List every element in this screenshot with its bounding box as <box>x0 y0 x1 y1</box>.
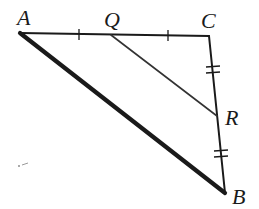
vertex-label-b: B <box>232 184 245 209</box>
vertex-label-c: C <box>201 8 216 33</box>
vertex-label-q: Q <box>104 7 120 32</box>
segment-ac <box>20 33 209 36</box>
segment-cb <box>209 36 225 193</box>
scan-artifact <box>18 163 28 167</box>
triangle-diagram: A Q C R B <box>0 0 259 209</box>
segment-ab <box>20 33 225 193</box>
vertex-label-a: A <box>15 5 31 30</box>
vertex-label-r: R <box>224 105 239 130</box>
segment-qr <box>111 35 217 116</box>
